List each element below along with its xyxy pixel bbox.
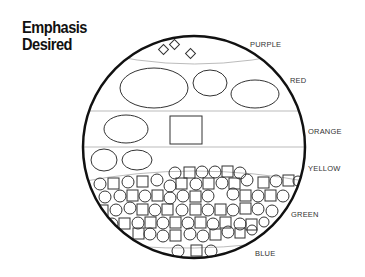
yellow-shapes [91, 149, 152, 171]
orange-shapes [104, 115, 202, 144]
label-red: RED [290, 76, 306, 85]
blue-shapes [172, 245, 217, 257]
red-shapes [120, 68, 279, 108]
label-blue: BLUE [255, 249, 275, 258]
purple-shapes [159, 40, 196, 59]
label-yellow: YELLOW [308, 164, 340, 173]
purple-divider [80, 48, 310, 64]
label-purple: PURPLE [250, 40, 281, 49]
emphasis-circle-diagram [0, 0, 365, 277]
label-orange: ORANGE [308, 127, 342, 136]
label-green: GREEN [291, 210, 319, 219]
green-shapes [94, 166, 303, 242]
